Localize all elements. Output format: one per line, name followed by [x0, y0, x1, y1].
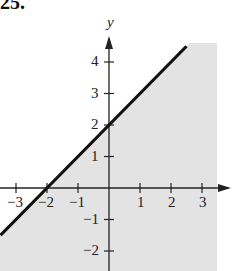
inequality-graph [0, 0, 235, 271]
y-tick-label: 3 [91, 85, 99, 102]
x-tick-label: 2 [168, 194, 176, 211]
y-tick-label: −2 [83, 242, 99, 259]
y-tick-label: 1 [91, 148, 99, 165]
x-tick-label: −3 [7, 194, 23, 211]
x-tick-label: −2 [38, 194, 54, 211]
y-tick-label: 2 [91, 116, 99, 133]
y-axis-label: y [107, 14, 114, 31]
y-tick-label: 4 [91, 53, 99, 70]
y-tick-label: −1 [83, 211, 99, 228]
x-tick-label: 1 [137, 194, 145, 211]
x-tick-label: −1 [69, 194, 85, 211]
x-tick-label: 3 [199, 194, 207, 211]
